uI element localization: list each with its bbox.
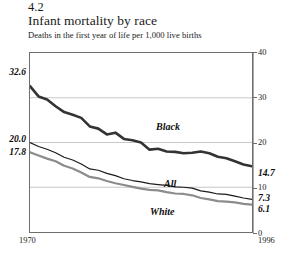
series-label-black: Black [156, 121, 180, 132]
callout-all-end: 7.3 [258, 193, 270, 203]
chart-plot-svg [30, 53, 252, 232]
y-tick-label-10: 10 [258, 183, 266, 192]
callout-black-start: 32.6 [0, 67, 26, 77]
callout-black-end: 14.7 [258, 168, 275, 178]
y-tick-mark-30 [253, 97, 257, 98]
callout-white-end: 6.1 [258, 204, 270, 214]
y-tick-mark-40 [253, 52, 257, 53]
callout-all-start: 20.0 [0, 134, 26, 144]
x-axis-start-label: 1970 [19, 236, 36, 246]
y-tick-mark-0 [253, 233, 257, 234]
figure-title: Infant mortality by race [28, 13, 157, 29]
series-line-white [30, 152, 252, 204]
series-label-all: All [164, 178, 176, 189]
y-tick-label-20: 20 [258, 138, 266, 147]
callout-white-start: 17.8 [0, 147, 26, 157]
plot-area [29, 52, 253, 233]
figure-subtitle: Deaths in the first year of life per 1,0… [28, 30, 202, 41]
series-line-all [30, 143, 252, 200]
y-tick-mark-10 [253, 188, 257, 189]
x-axis-end-label: 1996 [258, 236, 275, 246]
figure-container: 4.2 Infant mortality by race Deaths in t… [0, 0, 296, 260]
y-tick-label-40: 40 [258, 48, 266, 57]
y-tick-mark-20 [253, 143, 257, 144]
y-tick-label-30: 30 [258, 93, 266, 102]
series-label-white: White [150, 206, 174, 217]
